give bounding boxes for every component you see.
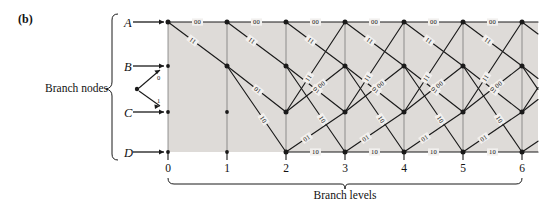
state-label-D: D [123, 146, 133, 160]
trellis-node-B-2 [284, 64, 289, 69]
trellis-node-A-0 [166, 20, 171, 25]
trellis-node-B-5 [461, 64, 466, 69]
edge-label: 00 [253, 18, 260, 25]
state-arrowhead-D [159, 149, 164, 154]
edge-label-group: 00 [369, 18, 380, 25]
trellis-node-A-2 [284, 20, 289, 25]
level-label-3: 3 [342, 162, 348, 174]
level-label-5: 5 [460, 162, 466, 174]
edge-label: 00 [312, 18, 319, 25]
edge-label: 00 [489, 18, 496, 25]
branch-levels-brace [168, 178, 522, 189]
edge-label: 10 [371, 148, 378, 155]
trellis-node-C-2 [284, 110, 289, 115]
edge-label-group: 00 [487, 18, 498, 25]
trellis-node-A-3 [343, 20, 348, 25]
trellis-node-A-6 [520, 20, 525, 25]
level-label-1: 1 [224, 162, 230, 174]
edge-label-group: 10 [428, 148, 439, 155]
trellis-node-A-5 [461, 20, 466, 25]
fork-origin-node [135, 87, 139, 91]
edge-label-group: 00 [310, 18, 321, 25]
state-label-A: A [123, 16, 132, 30]
edge-label-group: 00 [251, 18, 262, 25]
branch-nodes-label: Branch nodes [45, 82, 108, 94]
fork-label-zero: 0 [157, 74, 160, 81]
edge-label-group: 10 [310, 148, 321, 155]
edge-label: 00 [430, 18, 437, 25]
trellis-node-C-4 [402, 110, 407, 115]
edge-label: 10 [312, 148, 319, 155]
trellis-node-C-1 [225, 110, 229, 114]
level-label-2: 2 [283, 162, 289, 174]
edge-label: 10 [489, 148, 496, 155]
edge-label-group: 10 [487, 148, 498, 155]
trellis-node-C-0 [166, 110, 170, 114]
level-labels: 0123456 [165, 152, 525, 174]
edge-label: 10 [430, 148, 437, 155]
level-label-0: 0 [165, 162, 171, 174]
edge-label: 00 [194, 18, 201, 25]
trellis-node-A-4 [402, 20, 407, 25]
state-arrowhead-B [159, 63, 164, 68]
figure-panel: (b) 001100110110001101101100011000110110… [0, 0, 558, 203]
trellis-shaded-region [168, 22, 538, 152]
state-label-C: C [124, 106, 133, 120]
trellis-node-B-4 [402, 64, 407, 69]
edge-label-group: 10 [369, 148, 380, 155]
edge-label-group: 00 [192, 18, 203, 25]
trellis-diagram: 0011001101100011011011000110001101101100… [0, 0, 558, 203]
edge-label: 00 [371, 18, 378, 25]
trellis-node-C-3 [343, 110, 348, 115]
fork-label-one: 1 [157, 97, 160, 104]
state-arrowhead-C [159, 109, 164, 114]
state-labels: ABCD [123, 16, 164, 160]
level-label-6: 6 [519, 162, 525, 174]
trellis-node-B-1 [225, 64, 230, 69]
trellis-node-A-1 [225, 20, 230, 25]
trellis-node-C-6 [520, 110, 525, 115]
level-label-4: 4 [401, 162, 407, 174]
trellis-node-B-3 [343, 64, 348, 69]
trellis-node-B-6 [520, 64, 525, 69]
trellis-node-C-5 [461, 110, 466, 115]
edge-label-group: 00 [428, 18, 439, 25]
trellis-node-B-0 [166, 64, 170, 68]
state-label-B: B [124, 60, 132, 74]
branch-levels-label: Branch levels [314, 189, 377, 201]
state-arrowhead-A [159, 19, 164, 24]
